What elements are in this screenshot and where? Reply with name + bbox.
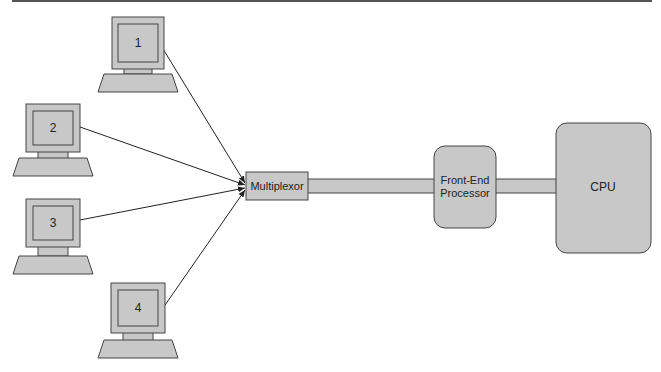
connection-line-2 — [80, 127, 245, 185]
terminal-2-label: 2 — [50, 121, 57, 135]
fep-label-line2: Processor — [440, 187, 490, 199]
keyboard — [98, 340, 178, 358]
keyboard — [13, 256, 93, 274]
bus-mux-to-fep — [307, 179, 435, 193]
bus-fep-to-cpu — [495, 179, 558, 193]
cpu[interactable]: CPU — [556, 123, 651, 253]
terminal-2[interactable]: 2 — [13, 104, 93, 176]
terminal-3[interactable]: 3 — [13, 199, 93, 274]
network-diagram: 1 2 3 4 Multiplexor Front-End Processor — [0, 0, 661, 372]
cpu-label: CPU — [590, 180, 615, 194]
connection-line-3 — [80, 188, 245, 220]
connection-line-4 — [163, 190, 245, 308]
connection-line-1 — [160, 44, 245, 183]
multiplexor-label: Multiplexor — [250, 180, 304, 192]
terminal-3-label: 3 — [50, 216, 57, 230]
multiplexor[interactable]: Multiplexor — [246, 172, 308, 200]
fep-label-line1: Front-End — [441, 174, 490, 186]
terminal-4[interactable]: 4 — [98, 283, 178, 358]
front-end-processor[interactable]: Front-End Processor — [434, 146, 496, 228]
terminal-4-label: 4 — [135, 301, 142, 315]
terminal-1-label: 1 — [135, 36, 142, 50]
keyboard — [13, 158, 93, 176]
keyboard — [98, 74, 178, 92]
